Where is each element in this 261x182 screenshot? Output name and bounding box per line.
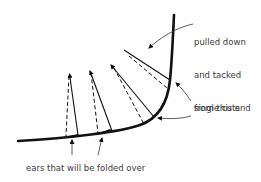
cut-3-solid (111, 65, 154, 117)
cut-1-dashed (66, 76, 69, 136)
label-line-2: and tacked (194, 70, 251, 81)
pulled-down-arrow (149, 24, 193, 48)
ears-arrow-2 (98, 138, 102, 155)
label-single-cuts: single cuts (194, 103, 240, 114)
diagram-canvas: pulled down and tacked from this end sin… (0, 0, 261, 182)
single-cuts-arrow-upper (176, 83, 191, 101)
label-line-1: pulled down (194, 37, 251, 48)
cut-4-solid (124, 50, 170, 80)
label-ears: ears that will be folded over (26, 163, 145, 174)
cut-1-solid (70, 74, 79, 135)
main-curve (18, 15, 174, 141)
label-pulled-down: pulled down and tacked from this end (194, 15, 251, 136)
cut-3-dashed (114, 68, 144, 124)
cut-4-dashed (129, 56, 167, 88)
cut-2-solid (90, 71, 112, 131)
single-cuts-arrow-lower (158, 116, 191, 119)
